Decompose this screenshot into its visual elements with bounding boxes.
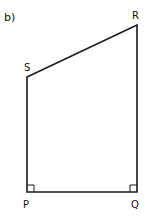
part-label: b) [4, 11, 15, 24]
diagram-canvas: b) P Q R S [0, 0, 148, 219]
vertex-label-s: S [24, 62, 30, 73]
vertex-label-r: R [132, 10, 139, 21]
edge-rs [27, 25, 137, 77]
quadrilateral-pqrs [27, 25, 137, 192]
vertex-label-p: P [23, 199, 29, 210]
vertex-label-q: Q [131, 199, 139, 210]
right-angle-marker-q [130, 185, 137, 192]
right-angle-marker-p [27, 185, 34, 192]
